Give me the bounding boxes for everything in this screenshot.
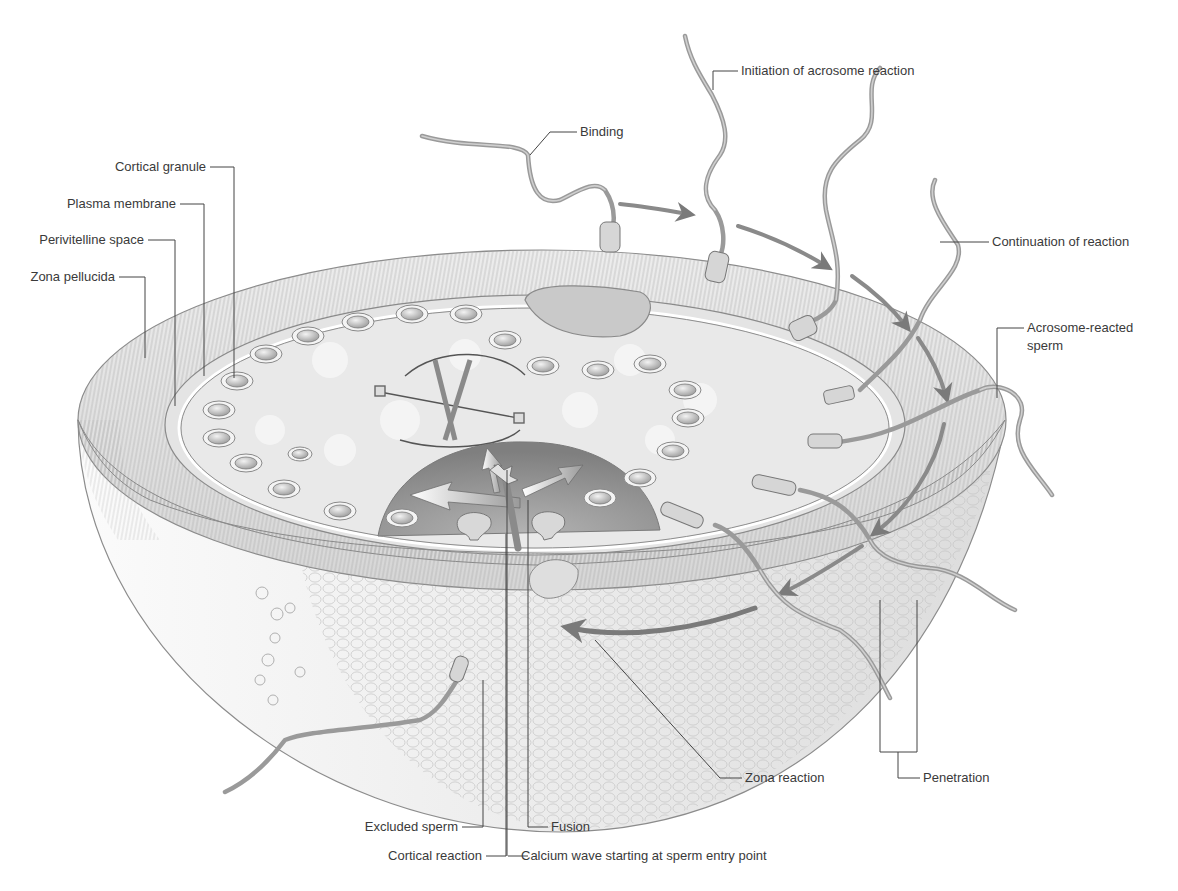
- cortical-granule: [584, 489, 616, 507]
- cortical-granule: [324, 502, 356, 520]
- label-fusion: Fusion: [551, 819, 590, 834]
- cortical-granule: [624, 469, 656, 487]
- cortical-granule: [489, 331, 521, 349]
- cortical-granule: [292, 327, 324, 345]
- label-perivitelline-space: Perivitelline space: [39, 232, 144, 247]
- cortical-granule: [582, 361, 614, 379]
- cortical-granule: [672, 409, 704, 427]
- label-acrosome-reacted: Acrosome-reacted: [1027, 320, 1133, 335]
- label-plasma-membrane: Plasma membrane: [67, 196, 176, 211]
- label-calcium-wave: Calcium wave starting at sperm entry poi…: [521, 848, 767, 863]
- label-continuation-of-reaction: Continuation of reaction: [992, 234, 1129, 249]
- cortical-granule: [386, 509, 418, 527]
- label-cortical-granule: Cortical granule: [115, 159, 206, 174]
- label-acrosome-reacted-line2: sperm: [1027, 338, 1063, 353]
- cortical-granule: [203, 401, 235, 419]
- cortical-granule: [268, 480, 300, 498]
- cortical-granule: [396, 305, 428, 323]
- sperm-binding: [422, 136, 620, 252]
- cortical-granule: [634, 355, 666, 373]
- label-cortical-reaction: Cortical reaction: [388, 848, 482, 863]
- cortical-granule: [221, 372, 253, 390]
- cortical-granule: [450, 305, 482, 323]
- cortical-granule: [669, 381, 701, 399]
- label-penetration: Penetration: [923, 770, 990, 785]
- cortical-granule: [342, 313, 374, 331]
- label-excluded-sperm: Excluded sperm: [365, 819, 458, 834]
- label-zona-pellucida: Zona pellucida: [30, 269, 115, 284]
- cortical-granule: [527, 357, 559, 375]
- fertilization-diagram: Cortical granule Plasma membrane Perivit…: [0, 0, 1178, 891]
- label-binding: Binding: [580, 124, 623, 139]
- cortical-granule: [250, 345, 282, 363]
- label-initiation-acrosome-reaction: Initiation of acrosome reaction: [741, 63, 914, 78]
- sperm-initiation: [685, 36, 730, 284]
- cortical-granule: [230, 454, 262, 472]
- label-zona-reaction: Zona reaction: [745, 770, 825, 785]
- cortical-granule: [657, 442, 689, 460]
- cortical-granule: [203, 429, 235, 447]
- cortical-granule: [288, 447, 312, 461]
